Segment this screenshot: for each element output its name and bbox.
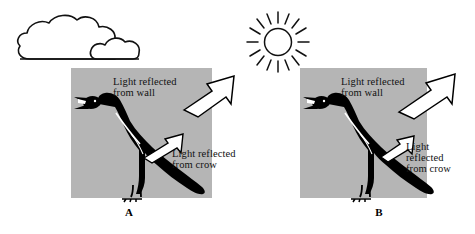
panel-b: Light reflected from wall Light reflecte…	[0, 0, 475, 234]
annotation-crow-b: Light reflected from crow	[406, 141, 470, 175]
light-reflection-figure: Light reflected from wall Light reflecte…	[0, 0, 475, 234]
annotation-wall-b: Light reflected from wall	[341, 76, 427, 98]
panel-caption-b: B	[369, 206, 389, 218]
panel-b-artwork	[0, 0, 475, 234]
sun-icon	[247, 12, 309, 72]
